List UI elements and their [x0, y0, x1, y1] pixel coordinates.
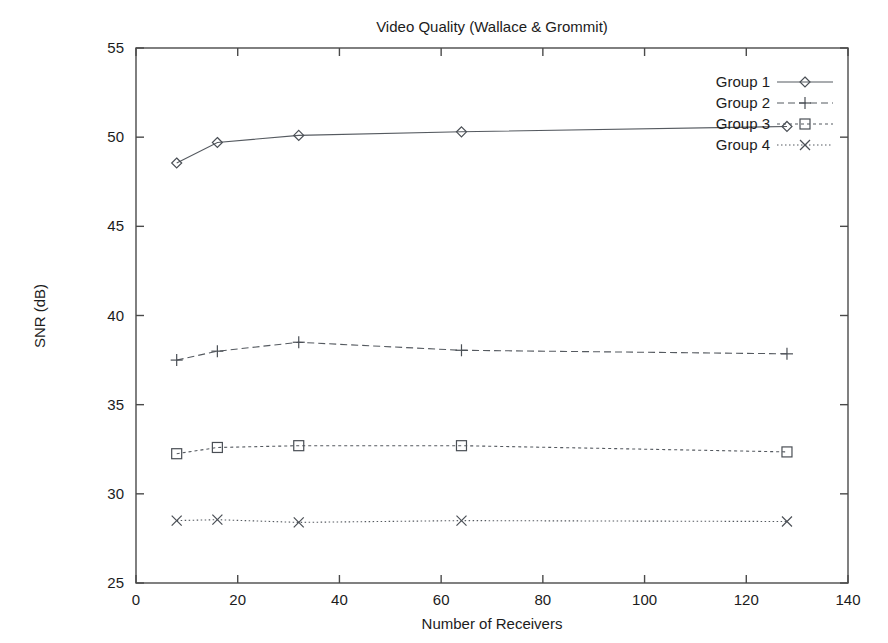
data-point-marker-diamond: [172, 158, 182, 168]
y-tick-label: 55: [107, 39, 124, 56]
y-axis-tick-labels: 55504540353025: [107, 39, 124, 591]
x-tick-label: 120: [734, 591, 759, 608]
data-point-marker-cross: [294, 517, 304, 527]
series-2: [171, 336, 793, 366]
legend-label-1[interactable]: Group 1: [716, 73, 770, 90]
series-line: [177, 520, 787, 523]
y-tick-label: 50: [107, 128, 124, 145]
legend-label-4[interactable]: Group 4: [716, 136, 770, 153]
series-line: [177, 127, 787, 164]
x-axis-tick-labels: 020406080100120140: [132, 591, 861, 608]
data-point-marker-plus: [455, 344, 467, 356]
data-point-marker-plus: [171, 354, 183, 366]
y-tick-label: 25: [107, 574, 124, 591]
x-axis-label: Number of Receivers: [422, 615, 563, 632]
data-point-marker-cross: [172, 516, 182, 526]
x-tick-label: 140: [835, 591, 860, 608]
data-point-marker-plus: [211, 345, 223, 357]
y-tick-label: 30: [107, 485, 124, 502]
series-line: [177, 342, 787, 360]
series-3: [172, 441, 792, 459]
data-point-marker-plus: [293, 336, 305, 348]
data-point-marker-plus: [781, 348, 793, 360]
chart-legend: Group 1Group 2Group 3Group 4: [716, 73, 833, 153]
x-tick-label: 100: [632, 591, 657, 608]
chart-title: Video Quality (Wallace & Grommit): [376, 18, 608, 35]
line-chart: Video Quality (Wallace & Grommit) 020406…: [0, 0, 888, 643]
y-tick-label: 45: [107, 217, 124, 234]
data-point-marker-plus: [799, 97, 811, 109]
series-4: [172, 515, 792, 528]
series-line: [177, 446, 787, 454]
series-1: [172, 121, 792, 168]
x-tick-label: 20: [229, 591, 246, 608]
data-point-marker-square: [172, 449, 182, 459]
data-point-marker-cross: [782, 516, 792, 526]
y-tick-label: 35: [107, 396, 124, 413]
data-series-group: [171, 121, 793, 527]
x-tick-label: 60: [433, 591, 450, 608]
chart-container: Video Quality (Wallace & Grommit) 020406…: [0, 0, 888, 643]
x-tick-label: 0: [132, 591, 140, 608]
y-axis-label: SNR (dB): [31, 284, 48, 348]
x-tick-label: 40: [331, 591, 348, 608]
x-tick-label: 80: [535, 591, 552, 608]
y-tick-label: 40: [107, 307, 124, 324]
legend-label-2[interactable]: Group 2: [716, 94, 770, 111]
legend-label-3[interactable]: Group 3: [716, 115, 770, 132]
